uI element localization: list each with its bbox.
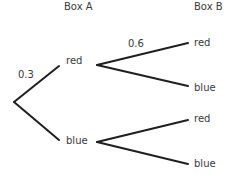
node-box-b-red-after-red: red xyxy=(194,37,210,49)
branch-red-to-blue xyxy=(97,65,188,86)
node-box-b-red-after-blue: red xyxy=(194,113,210,125)
probability-label-root-red: 0.3 xyxy=(18,69,34,81)
node-box-a-blue: blue xyxy=(66,135,88,147)
header-box-b: Box B xyxy=(194,1,223,13)
branch-blue-to-red xyxy=(97,120,188,142)
probability-label-red-red: 0.6 xyxy=(128,38,144,50)
header-box-a: Box A xyxy=(64,1,93,13)
node-box-a-red: red xyxy=(66,55,82,67)
node-box-b-blue-after-red: blue xyxy=(194,82,216,94)
tree-branches xyxy=(0,0,227,181)
node-box-b-blue-after-blue: blue xyxy=(194,158,216,170)
branch-blue-to-blue xyxy=(97,142,188,164)
branch-root-to-blue xyxy=(14,102,59,140)
